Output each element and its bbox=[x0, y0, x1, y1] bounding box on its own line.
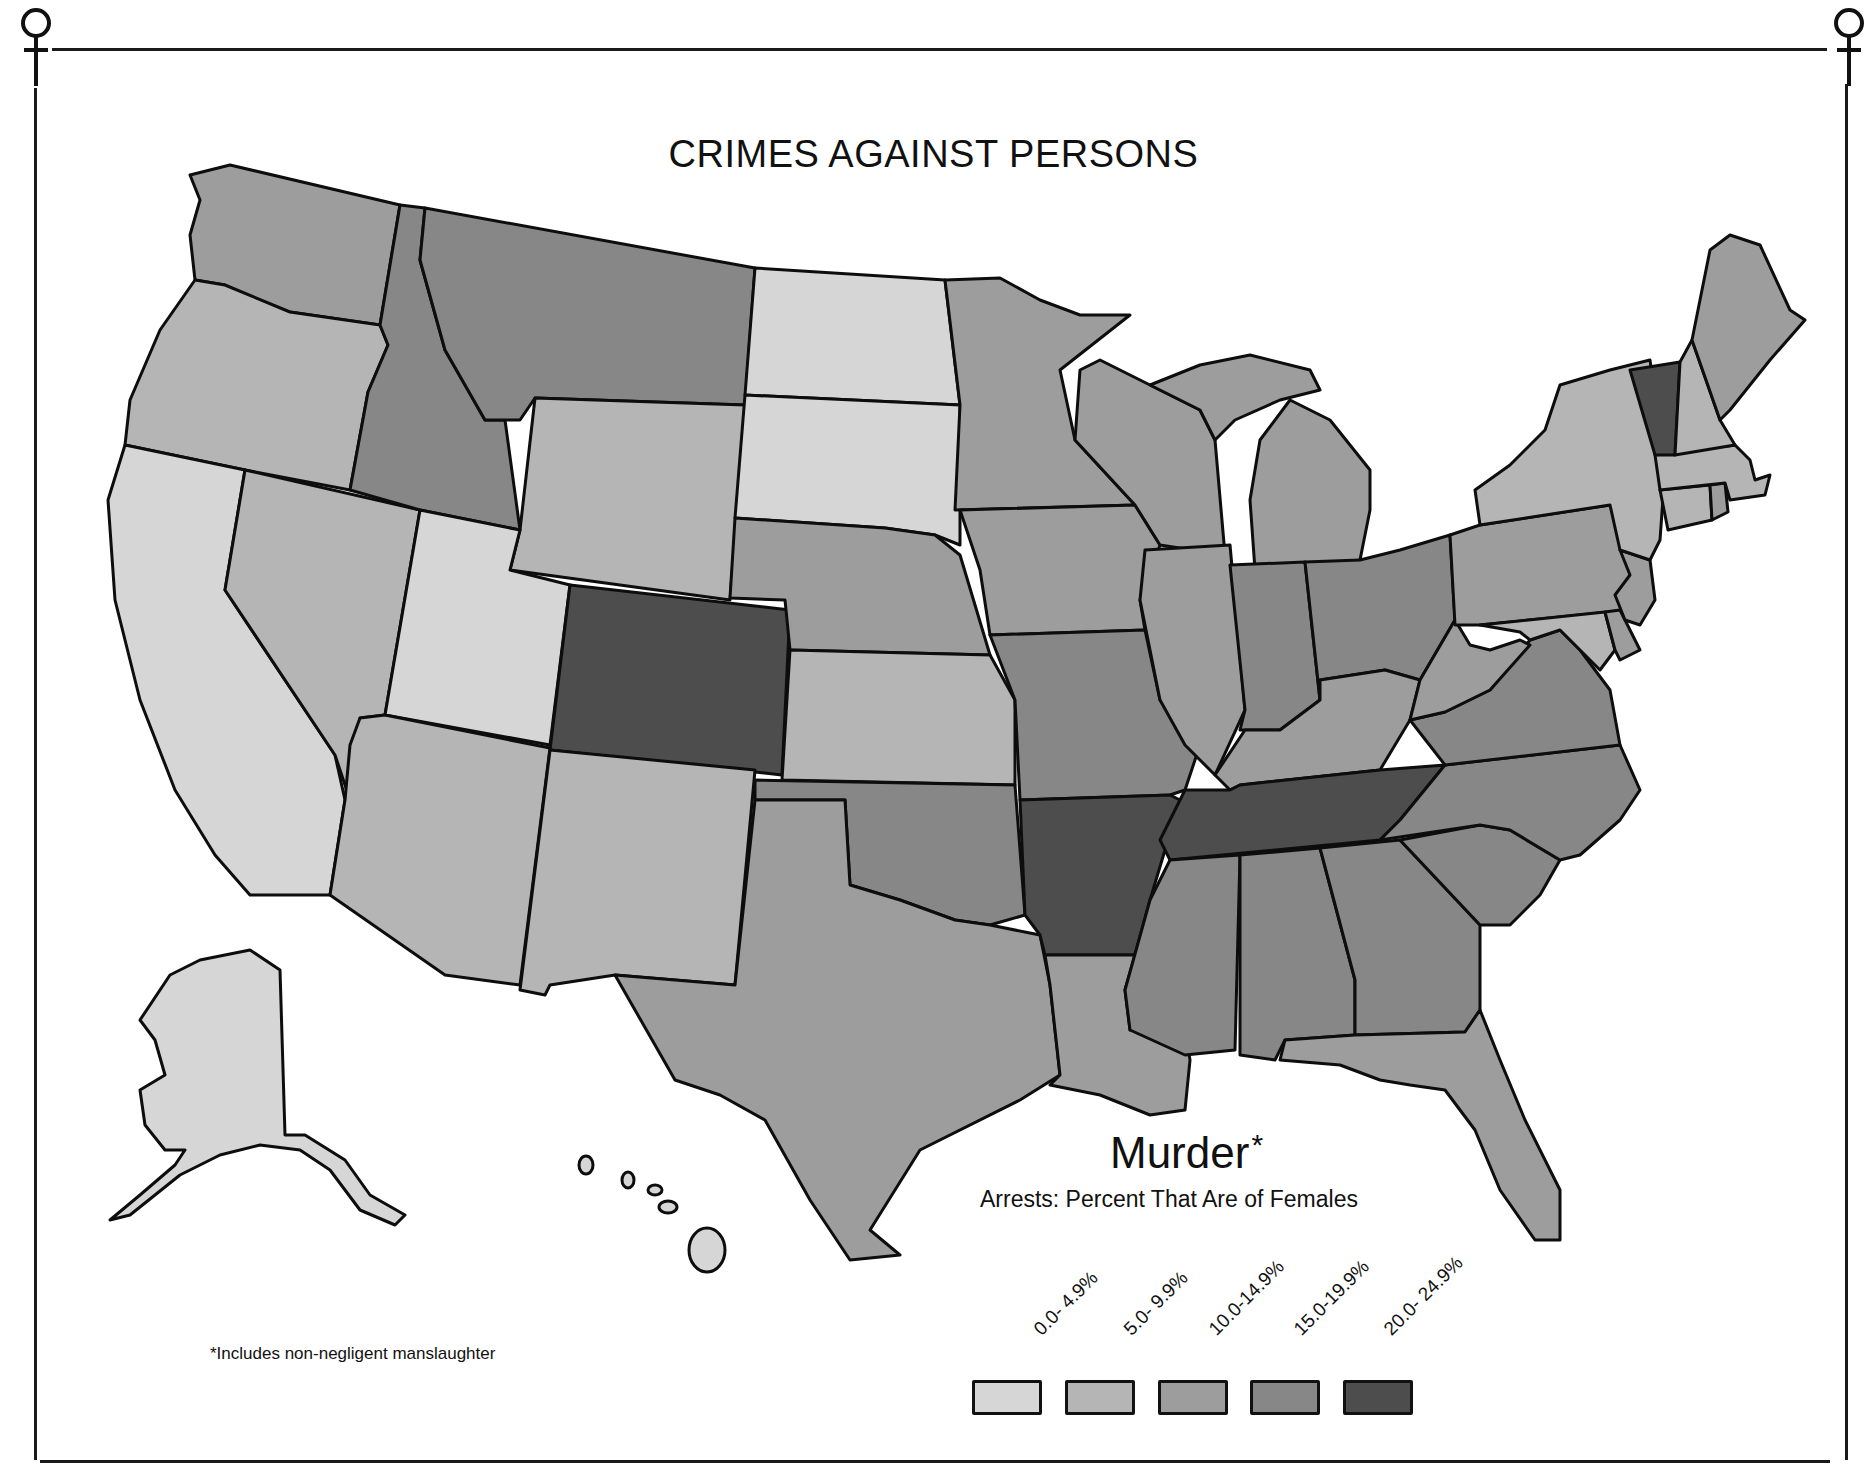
state-IA[interactable] bbox=[960, 505, 1160, 635]
state-KS[interactable] bbox=[782, 650, 1015, 785]
state-NM[interactable] bbox=[520, 750, 755, 995]
legend-swatch-0 bbox=[972, 1380, 1042, 1415]
state-AK[interactable] bbox=[110, 950, 405, 1225]
state-MI[interactable] bbox=[1250, 400, 1370, 570]
state-HI-island[interactable] bbox=[648, 1185, 662, 1195]
state-AZ[interactable] bbox=[330, 715, 550, 985]
footnote: *Includes non-negligent manslaughter bbox=[210, 1344, 495, 1364]
legend-swatch-3 bbox=[1250, 1380, 1320, 1415]
state-WY[interactable] bbox=[510, 398, 745, 600]
state-CT[interactable] bbox=[1660, 485, 1712, 530]
legend-heading: Murder bbox=[1110, 1128, 1249, 1177]
state-HI[interactable] bbox=[689, 1228, 725, 1272]
state-HI-island[interactable] bbox=[622, 1172, 634, 1188]
legend-asterisk: * bbox=[1251, 1128, 1263, 1161]
us-choropleth-map bbox=[0, 0, 1867, 1475]
legend-swatch-2 bbox=[1158, 1380, 1228, 1415]
state-PA[interactable] bbox=[1450, 505, 1630, 625]
state-ME[interactable] bbox=[1692, 235, 1805, 420]
state-CO[interactable] bbox=[550, 585, 790, 775]
legend-subtitle: Arrests: Percent That Are of Females bbox=[980, 1186, 1358, 1213]
legend-swatch-1 bbox=[1065, 1380, 1135, 1415]
state-ND[interactable] bbox=[745, 268, 960, 405]
state-HI-island[interactable] bbox=[579, 1156, 593, 1174]
state-MT[interactable] bbox=[420, 208, 755, 420]
legend-swatch-4 bbox=[1343, 1380, 1413, 1415]
legend-title: Murder* bbox=[1110, 1128, 1263, 1178]
state-HI-island[interactable] bbox=[659, 1201, 677, 1213]
